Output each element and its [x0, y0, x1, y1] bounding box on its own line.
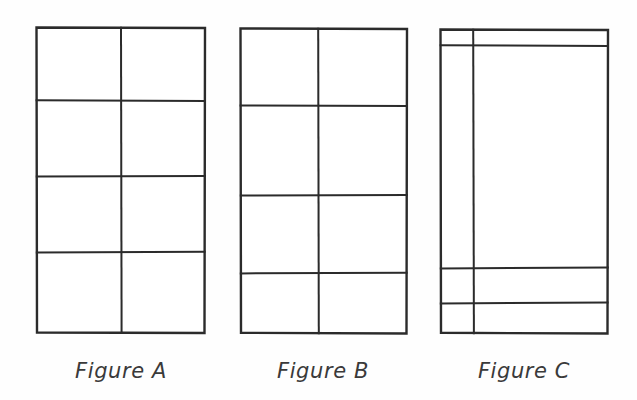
figure-c-caption: Figure C — [478, 359, 570, 383]
figure-c-face — [440, 29, 608, 333]
figure-b-vline-1 — [318, 29, 319, 333]
figure-a-vline-1 — [121, 28, 122, 333]
figure-b-face — [240, 28, 407, 333]
figure-a-group: Figure A — [36, 27, 205, 383]
figure-c-vline-1 — [473, 30, 474, 333]
figure-b-hline-2 — [241, 195, 407, 196]
figure-c-hline-1 — [441, 45, 608, 46]
figure-b-group: Figure B — [240, 28, 407, 383]
figure-a-hline-3 — [37, 252, 205, 253]
figure-b-hline-3 — [241, 273, 407, 274]
figure-b-hline-1 — [241, 105, 407, 106]
figures-svg: Figure A Figure B Figu — [0, 0, 637, 400]
figure-c-group: Figure C — [440, 29, 608, 383]
figure-diagram-canvas: Figure A Figure B Figu — [0, 0, 637, 400]
figure-b-caption: Figure B — [277, 359, 369, 383]
figure-a-hline-2 — [37, 176, 205, 177]
figure-a-hline-1 — [37, 100, 205, 101]
figure-c-hline-2 — [441, 268, 608, 269]
figure-a-caption: Figure A — [75, 359, 167, 383]
figure-c-hline-3 — [441, 303, 608, 304]
